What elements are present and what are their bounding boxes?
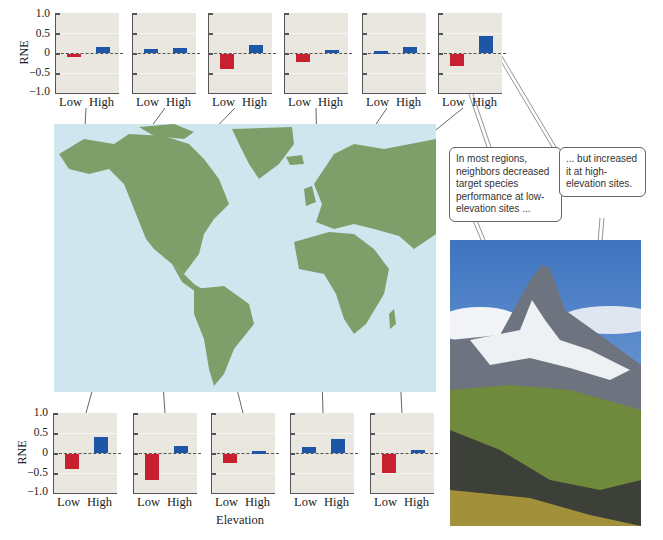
x-tick-low: Low bbox=[59, 95, 82, 110]
x-tick-high: High bbox=[87, 495, 112, 510]
ytick-1: 1.0 bbox=[20, 7, 50, 19]
ytick-0.5: 0.5 bbox=[20, 27, 50, 39]
y-tick-mark bbox=[362, 33, 367, 35]
gridline bbox=[134, 433, 197, 434]
x-tick-low: Low bbox=[137, 495, 160, 510]
chart-panel-top-6: LowHigh bbox=[438, 13, 502, 94]
chart-panel-top-5: LowHigh bbox=[362, 13, 426, 94]
bar-high bbox=[94, 437, 108, 453]
gridline bbox=[291, 433, 354, 434]
x-tick-high: High bbox=[242, 95, 267, 110]
y-tick-mark bbox=[290, 413, 295, 415]
gridline bbox=[209, 73, 272, 74]
y-tick-mark bbox=[133, 433, 138, 435]
ytick-1: 1.0 bbox=[18, 406, 48, 418]
chart-panel-top-1: LowHigh bbox=[55, 13, 119, 94]
y-tick-mark bbox=[55, 33, 60, 35]
y-tick-mark bbox=[438, 33, 443, 35]
chart-panel-top-2: LowHigh bbox=[132, 13, 196, 94]
gridline bbox=[209, 33, 272, 34]
gridline bbox=[285, 33, 348, 34]
y-tick-mark bbox=[290, 473, 295, 475]
y-tick-mark bbox=[53, 433, 58, 435]
zero-line bbox=[291, 453, 358, 454]
chart-panel-bottom-2: LowHigh bbox=[133, 413, 197, 494]
y-tick-mark bbox=[208, 73, 213, 75]
bar-low bbox=[382, 454, 396, 473]
gridline bbox=[56, 73, 119, 74]
bar-low bbox=[296, 54, 310, 62]
bar-high bbox=[479, 36, 493, 53]
mountain-photo bbox=[450, 240, 641, 526]
bar-low bbox=[67, 54, 81, 57]
bar-low bbox=[450, 54, 464, 66]
chart-panel-top-3: LowHigh bbox=[208, 13, 272, 94]
bar-low bbox=[220, 54, 234, 69]
x-tick-low: Low bbox=[215, 495, 238, 510]
x-tick-low: Low bbox=[212, 95, 235, 110]
ytick-neg1: −1.0 bbox=[18, 485, 48, 497]
y-tick-mark bbox=[208, 13, 213, 15]
bar-high bbox=[96, 47, 110, 53]
gridline bbox=[133, 33, 196, 34]
x-tick-low: Low bbox=[288, 95, 311, 110]
ytick-neg0.5: −0.5 bbox=[18, 466, 48, 478]
gridline bbox=[363, 33, 426, 34]
gridline bbox=[439, 33, 502, 34]
y-tick-mark bbox=[211, 413, 216, 415]
y-tick-mark bbox=[370, 413, 375, 415]
x-tick-high: High bbox=[396, 95, 421, 110]
bar-high bbox=[174, 446, 188, 453]
chart-panel-bottom-1: LowHigh bbox=[53, 413, 117, 494]
gridline bbox=[54, 473, 117, 474]
y-tick-mark bbox=[211, 433, 216, 435]
chart-panel-bottom-5: LowHigh bbox=[370, 413, 434, 494]
bar-low bbox=[302, 447, 316, 453]
bar-low bbox=[223, 454, 237, 463]
x-tick-high: High bbox=[167, 495, 192, 510]
y-tick-mark bbox=[284, 73, 289, 75]
y-tick-mark bbox=[284, 33, 289, 35]
bar-high bbox=[325, 50, 339, 53]
ytick-neg1: −1.0 bbox=[20, 85, 50, 97]
gridline bbox=[54, 433, 117, 434]
bar-high bbox=[252, 451, 266, 454]
y-tick-mark bbox=[438, 13, 443, 15]
gridline bbox=[363, 73, 426, 74]
y-tick-mark bbox=[53, 413, 58, 415]
y-tick-mark bbox=[132, 13, 137, 15]
gridline bbox=[371, 473, 434, 474]
callout-low-elevation: In most regions, neighbors decreased tar… bbox=[449, 147, 562, 222]
y-tick-mark bbox=[438, 73, 443, 75]
y-tick-mark bbox=[55, 13, 60, 15]
y-tick-mark bbox=[290, 433, 295, 435]
gridline bbox=[285, 73, 348, 74]
x-axis-label: Elevation bbox=[216, 513, 264, 528]
x-tick-low: Low bbox=[57, 495, 80, 510]
y-tick-mark bbox=[362, 13, 367, 15]
bar-high bbox=[173, 48, 187, 53]
x-tick-low: Low bbox=[294, 495, 317, 510]
ytick-neg0.5: −0.5 bbox=[20, 66, 50, 78]
x-tick-high: High bbox=[318, 95, 343, 110]
x-tick-high: High bbox=[472, 95, 497, 110]
y-tick-mark bbox=[133, 413, 138, 415]
chart-panel-top-4: LowHigh bbox=[284, 13, 348, 94]
x-tick-low: Low bbox=[442, 95, 465, 110]
zero-line bbox=[133, 53, 200, 54]
gridline bbox=[133, 73, 196, 74]
gridline bbox=[212, 473, 275, 474]
y-tick-mark bbox=[208, 33, 213, 35]
x-tick-high: High bbox=[89, 95, 114, 110]
callout-high-elevation: ... but increased it at high-elevation s… bbox=[559, 147, 646, 197]
bar-high bbox=[411, 450, 425, 453]
bar-high bbox=[249, 45, 263, 53]
x-tick-high: High bbox=[166, 95, 191, 110]
gridline bbox=[212, 433, 275, 434]
ytick-0.5: 0.5 bbox=[18, 426, 48, 438]
gridline bbox=[134, 473, 197, 474]
bar-high bbox=[403, 47, 417, 53]
y-tick-mark bbox=[284, 13, 289, 15]
world-map-land bbox=[54, 124, 436, 392]
y-tick-mark bbox=[362, 73, 367, 75]
